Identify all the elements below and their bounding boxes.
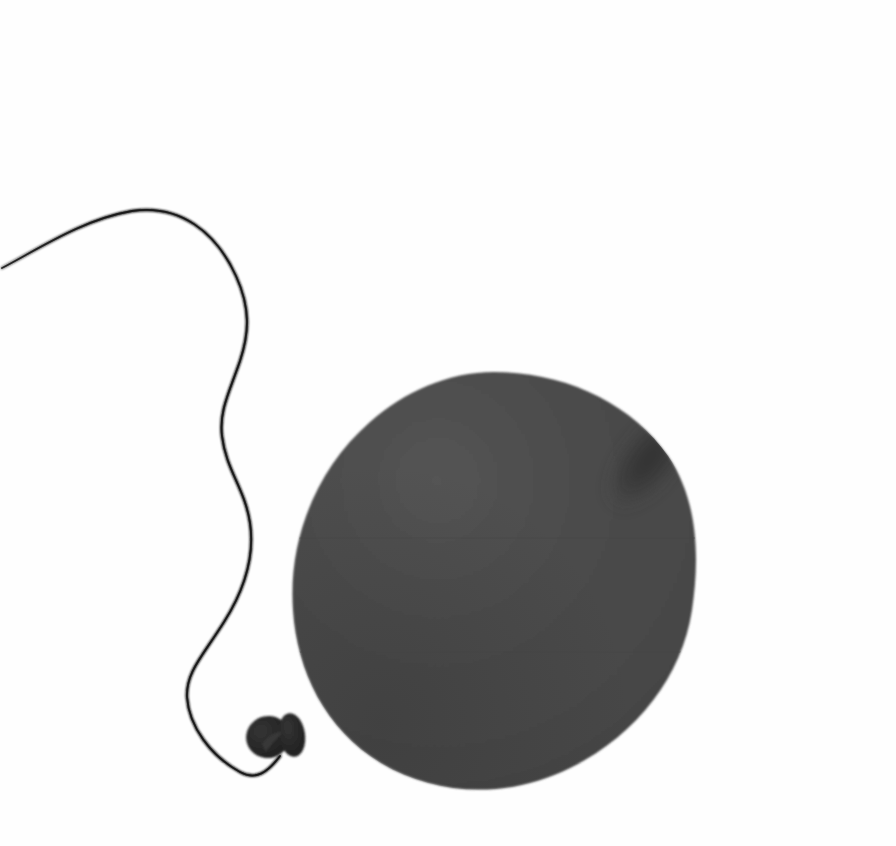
balloon-illustration [0, 0, 896, 846]
image-canvas: Balloon A dark gray inflated party ballo… [0, 0, 896, 846]
